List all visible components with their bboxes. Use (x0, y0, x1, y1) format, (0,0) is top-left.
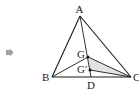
label-c: C (133, 71, 139, 83)
triangle-figure: A B C G G′ D (0, 0, 139, 95)
arrow-bullet-icon (6, 49, 14, 57)
point-g (87, 56, 90, 59)
label-d: D (87, 79, 95, 91)
point-gp (89, 69, 92, 72)
label-gp: G′ (77, 63, 87, 75)
label-a: A (76, 3, 84, 15)
label-g: G (77, 48, 85, 60)
label-b: B (42, 71, 49, 83)
segment-ab (52, 16, 80, 77)
